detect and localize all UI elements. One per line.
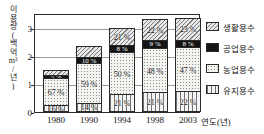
legend-swatch-maintenance-icon: [206, 85, 219, 94]
segment-1998-agricultural: 48 %: [142, 48, 168, 93]
legend-label-domestic: 생활용수: [223, 21, 255, 33]
segment-label-1998-agricultural: 48 %: [147, 66, 164, 75]
segment-label-2003-maintenance: 22 %: [180, 97, 197, 106]
segment-1998-industrial: 9 %: [142, 40, 168, 48]
segment-1994-industrial: 8 %: [109, 45, 135, 52]
segment-label-1998-industrial: 9 %: [149, 40, 160, 48]
segment-label-1990-industrial: 10 %: [82, 57, 97, 64]
bar-1990[interactable]: 17 % 10 % 59 % 14 %: [76, 46, 102, 113]
legend-item-agricultural[interactable]: 농업용수: [206, 58, 264, 79]
bar-2003[interactable]: 23 % 8 % 47 % 22 %: [175, 18, 201, 112]
legend-label-maintenance: 유지용수: [223, 84, 255, 96]
segment-1990-industrial: 10 %: [76, 57, 102, 64]
segment-label-1990-agricultural: 59 %: [81, 79, 98, 88]
legend-item-domestic[interactable]: 생활용수: [206, 16, 264, 37]
y-axis-title: 이 용 량 ( 백 억 m³ / 년 ): [1, 6, 25, 118]
segment-1980-agricultural: 67 %: [43, 78, 69, 106]
legend-item-maintenance[interactable]: 유지용수: [206, 79, 264, 100]
segment-label-1980-agricultural: 67 %: [48, 87, 65, 96]
segment-2003-industrial: 8 %: [175, 40, 201, 48]
legend-item-industrial[interactable]: 공업용수: [206, 37, 264, 58]
segment-1990-agricultural: 59 %: [76, 63, 102, 102]
legend-label-agricultural: 농업용수: [223, 63, 255, 75]
bar-1980[interactable]: 12 % 5 % 67 % 16 %: [43, 70, 69, 112]
segment-2003-agricultural: 47 %: [175, 47, 201, 91]
segment-1998-maintenance: 21 %: [142, 92, 168, 112]
segment-2003-domestic: 23 %: [175, 18, 201, 40]
segment-label-1998-domestic: 22 %: [147, 25, 164, 34]
segment-label-1980-domestic: 12 %: [48, 70, 65, 71]
segment-label-1980-maintenance: 16 %: [48, 105, 65, 112]
segment-1990-maintenance: 14 %: [76, 103, 102, 112]
segment-label-1994-agricultural: 50 %: [114, 69, 131, 78]
x-axis-title: 연도(년): [201, 115, 231, 127]
segment-label-2003-industrial: 8 %: [182, 40, 193, 47]
legend-swatch-agricultural-icon: [206, 64, 219, 73]
segment-label-1994-domestic: 21 %: [114, 32, 131, 41]
water-usage-stacked-bar-chart: 이 용 량 ( 백 억 m³ / 년 ) 0 1 2 3 12 % 5 %: [0, 0, 264, 134]
segment-label-1994-maintenance: 21 %: [114, 99, 131, 108]
segment-1980-maintenance: 16 %: [43, 105, 69, 112]
segment-label-1990-maintenance: 14 %: [81, 103, 98, 112]
segment-label-1994-industrial: 8 %: [116, 45, 127, 52]
segment-1994-maintenance: 21 %: [109, 94, 135, 112]
segment-1998-domestic: 22 %: [142, 19, 168, 39]
y-tick-mark-0: [31, 113, 34, 114]
legend-swatch-domestic-icon: [206, 22, 219, 31]
segment-label-1990-domestic: 17 %: [81, 46, 98, 47]
segment-2003-maintenance: 22 %: [175, 91, 201, 112]
segment-1994-agricultural: 50 %: [109, 52, 135, 94]
segment-label-2003-agricultural: 47 %: [180, 65, 197, 74]
bar-group: 12 % 5 % 67 % 16 % 17 % 10 % 59 %: [35, 15, 199, 112]
segment-1994-domestic: 21 %: [109, 28, 135, 46]
segment-1990-domestic: 17 %: [76, 46, 102, 57]
legend: 생활용수 공업용수 농업용수 유지용수: [206, 16, 264, 100]
legend-swatch-industrial-icon: [206, 43, 219, 52]
legend-label-industrial: 공업용수: [223, 42, 255, 54]
bar-1994[interactable]: 21 % 8 % 50 % 21 %: [109, 28, 135, 113]
bar-1998[interactable]: 22 % 9 % 48 % 21 %: [142, 19, 168, 112]
segment-label-2003-domestic: 23 %: [180, 25, 197, 34]
segment-label-1998-maintenance: 21 %: [147, 98, 164, 107]
